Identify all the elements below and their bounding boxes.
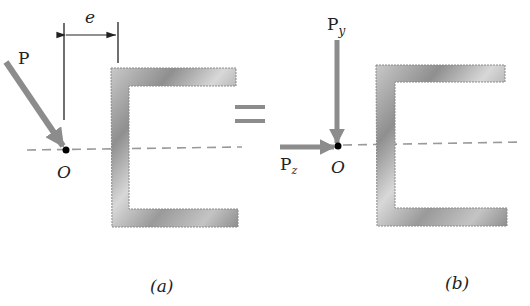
force-label-py-subscript: y [337, 24, 345, 38]
equals-sign [235, 105, 265, 123]
panel-a: e P O (a) [6, 7, 242, 296]
channel-section-a [111, 68, 238, 227]
dimension-label-e: e [85, 7, 95, 27]
point-o-b [335, 143, 342, 150]
force-label-pz: Pz [280, 154, 297, 177]
force-label-pz-base: P [280, 154, 291, 174]
channel-section-b [376, 65, 507, 226]
force-label-py: Py [327, 14, 345, 38]
centerline-a [27, 147, 242, 150]
force-arrow-p [6, 62, 63, 146]
force-label-pz-subscript: z [290, 164, 297, 177]
point-o-a [63, 147, 70, 154]
force-label-p: P [18, 48, 29, 68]
panel-b: Py Pz O (b) [280, 14, 522, 293]
centerline-b [343, 142, 522, 145]
eccentric-load-diagram: e P O (a) Py Pz O (b) [0, 0, 530, 306]
point-label-o-b: O [331, 157, 345, 177]
force-label-py-base: P [327, 14, 338, 34]
caption-b: (b) [445, 273, 469, 293]
caption-a: (a) [150, 276, 173, 296]
point-label-o-a: O [57, 162, 71, 182]
